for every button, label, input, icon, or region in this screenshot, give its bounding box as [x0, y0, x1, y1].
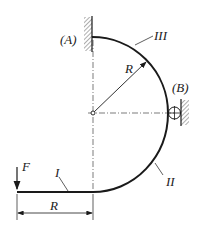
- label-segment-iii: III: [153, 28, 168, 43]
- label-dimension: R: [49, 198, 58, 213]
- label-segment-ii: II: [165, 174, 175, 189]
- label-support-a: (A): [60, 32, 77, 47]
- support-a-wall: [84, 16, 92, 52]
- center-point: [91, 111, 95, 115]
- label-segment-i: I: [54, 165, 60, 180]
- label-radius: R: [124, 61, 133, 76]
- label-support-b: (B): [172, 80, 189, 95]
- diagram-canvas: (A) (B) III II I R F R: [0, 0, 202, 235]
- segment-ii-arc: [93, 113, 168, 192]
- support-b-roller: [168, 99, 189, 126]
- leader-ii: [155, 163, 163, 175]
- leader-i: [59, 177, 68, 191]
- radius-arrow: [93, 62, 146, 113]
- leader-iii: [135, 36, 153, 45]
- label-force: F: [21, 159, 31, 174]
